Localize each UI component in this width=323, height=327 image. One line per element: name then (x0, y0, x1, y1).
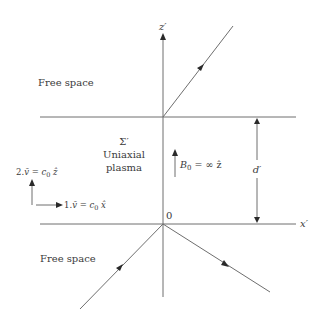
incident-ray-arrowhead-icon (116, 264, 123, 271)
x-axis-label: x′ (300, 218, 309, 229)
slab-diagram: x′ z′ 0 Free space Free space Σ′ Uniaxia… (0, 0, 323, 327)
velocity-2-eq: = (29, 167, 42, 177)
z-axis-arrowhead-icon (160, 33, 166, 40)
transmitted-ray (163, 26, 233, 117)
slab-label-line2: plasma (106, 162, 142, 173)
velocity-1-dir: x̂ (98, 200, 106, 210)
field-arrowhead-icon (172, 149, 178, 156)
velocity-1-prefix: 1. (64, 200, 72, 210)
thickness-label: d′ (253, 164, 262, 175)
velocity-1-eq: = (77, 200, 90, 210)
field-label-value: = ∞ ẑ (191, 159, 221, 170)
slab-label-line1: Uniaxial (103, 149, 145, 160)
velocity-2-arrowhead-icon (29, 179, 35, 186)
field-label-symbol: B (179, 159, 187, 170)
velocity-1-arrowhead-icon (56, 202, 63, 208)
top-region-label: Free space (38, 77, 94, 88)
velocity-2-prefix: 2. (16, 167, 24, 177)
velocity-2-dir: ẑ (50, 167, 58, 177)
slab-symbol: Σ′ (119, 136, 129, 147)
velocity-2-label: 2.v̄ = c0 ẑ (16, 167, 58, 179)
bottom-region-label: Free space (40, 253, 96, 264)
thickness-arrowhead-down-icon (254, 217, 260, 223)
z-axis-label: z′ (158, 21, 167, 32)
field-label: B0 = ∞ ẑ (179, 159, 221, 172)
transmitted-ray-arrowhead-icon (197, 64, 204, 71)
origin-label: 0 (166, 210, 172, 221)
velocity-1-label: 1.v̄ = c0 x̂ (64, 200, 106, 212)
reflected-ray (163, 224, 270, 292)
thickness-arrowhead-up-icon (254, 118, 260, 124)
